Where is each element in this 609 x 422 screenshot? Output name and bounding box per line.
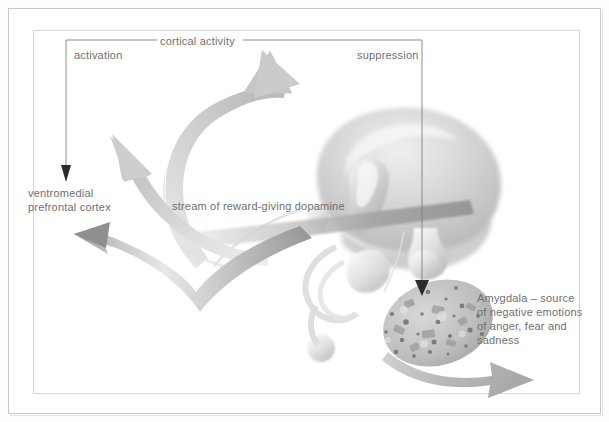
label-suppression: suppression (357, 48, 419, 62)
label-dopamine-stream: stream of reward-giving dopamine (172, 199, 345, 213)
brain-illustration (317, 107, 501, 269)
label-activation: activation (74, 48, 122, 62)
figure-page: activation cortical activity suppression… (0, 0, 609, 422)
label-ventromedial-prefrontal-cortex: ventromedial prefrontal cortex (28, 186, 111, 214)
label-amygdala: Amygdala – source of negative emotions o… (477, 291, 587, 347)
arrow-down-icon-activation (61, 165, 71, 182)
label-cortical-activity: cortical activity (160, 34, 235, 48)
